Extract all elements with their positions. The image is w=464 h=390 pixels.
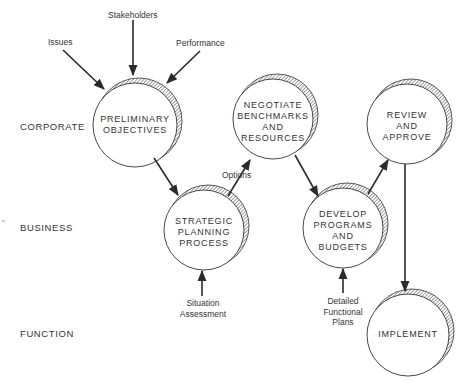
label-line: Functional [323,307,362,318]
level-corporate: CORPORATE [20,121,85,132]
node-line: REVIEW [382,110,431,121]
label-performance: Performance [176,38,225,48]
label-detailed-functional-plans: Detailed Functional Plans [323,296,362,328]
node-line: PLANNING [175,227,233,238]
label-line: Assessment [180,309,226,320]
node-line: AND [382,121,431,132]
arrow-prelim-to-strategic [154,158,178,195]
node-line: PRELIMINARY [100,114,170,125]
node-line: PROGRAMS [314,220,373,231]
node-line: IMPLEMENT [378,329,438,340]
level-function: FUNCTION [20,328,74,339]
node-text-negotiate: NEGOTIATE BENCHMARKS AND RESOURCES [237,100,309,144]
node-line: PROCESS [175,238,233,249]
label-options: Options [222,170,251,180]
arrow-performance [167,51,200,83]
node-text-develop: DEVELOP PROGRAMS AND BUDGETS [314,209,373,253]
arrow-develop-to-review [368,160,388,194]
level-business: BUSINESS [20,222,73,233]
label-situation-assessment: Situation Assessment [180,298,226,319]
node-text-implement: IMPLEMENT [378,329,438,340]
node-text-strategic: STRATEGIC PLANNING PROCESS [175,216,233,249]
label-issues: Issues [48,37,73,47]
label-line: Situation [180,298,226,309]
arrow-negotiate-to-develop [295,155,318,196]
node-line: BUDGETS [314,242,373,253]
node-line: AND [314,231,373,242]
label-stakeholders: Stakeholders [108,10,158,20]
label-line: Plans [323,317,362,328]
node-line: APPROVE [382,132,431,143]
arrow-issues [63,50,104,89]
node-line: RESOURCES [237,133,309,144]
label-line: Detailed [323,296,362,307]
node-line: STRATEGIC [175,216,233,227]
node-line: DEVELOP [314,209,373,220]
node-text-preliminary: PRELIMINARY OBJECTIVES [100,114,170,136]
node-line: OBJECTIVES [100,125,170,136]
node-line: AND [237,122,309,133]
node-line: NEGOTIATE [237,100,309,111]
node-line: BENCHMARKS [237,111,309,122]
node-text-review: REVIEW AND APPROVE [382,110,431,143]
